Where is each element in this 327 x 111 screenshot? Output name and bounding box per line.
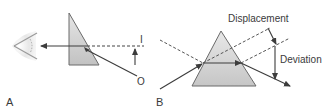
panel-b-label: B — [156, 96, 163, 108]
incident-dashed — [160, 40, 203, 63]
panel-a-label: A — [6, 96, 14, 108]
deviation-label: Deviation — [280, 54, 322, 65]
panel-a: I O A — [6, 13, 145, 108]
object-label: O — [137, 76, 145, 87]
panel-b: Displacement Deviation B — [156, 13, 322, 108]
prism-a — [69, 13, 99, 65]
prism-diagram: I O A Displacement Deviation B — [0, 0, 327, 111]
eye-icon — [12, 31, 37, 61]
displacement-arrow — [268, 28, 276, 44]
image-label: I — [140, 34, 143, 45]
displacement-label: Displacement — [228, 13, 289, 24]
prism-b — [192, 31, 256, 86]
